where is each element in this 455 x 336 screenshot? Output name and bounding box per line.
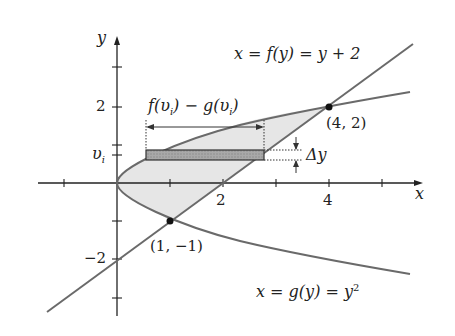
representative-strip — [146, 150, 264, 160]
plot-canvas — [0, 0, 455, 336]
y-tick-label-neg2: −2 — [84, 251, 106, 266]
x-tick-label-2: 2 — [216, 193, 226, 208]
y-axis-label: y — [97, 30, 106, 46]
arrow-left-icon — [146, 124, 154, 130]
arrow-up-icon — [293, 160, 299, 167]
point-label-1-neg1: (1, −1) — [150, 239, 203, 254]
curve-g-label: x = g(y) = y2 — [256, 283, 359, 300]
x-tick-label-4: 4 — [323, 193, 333, 208]
diagram: y x 2 −2 2 4 υi x = f(y) = y + 2 x = g(y… — [0, 0, 455, 336]
point-1-neg1 — [167, 218, 174, 225]
point-label-4-2: (4, 2) — [326, 116, 366, 131]
point-4-2 — [326, 104, 333, 111]
y-tick-label-2: 2 — [96, 99, 106, 114]
y-axis-arrow-icon — [114, 36, 120, 45]
arrow-down-icon — [293, 143, 299, 150]
width-label: f(υi) − g(υi) — [148, 98, 239, 117]
y-marker-vi: υi — [92, 146, 105, 165]
x-axis-label: x — [415, 186, 424, 202]
delta-y-label: Δy — [306, 147, 327, 163]
curve-f-label: x = f(y) = y + 2 — [234, 46, 360, 62]
curve-f-line — [47, 44, 413, 312]
